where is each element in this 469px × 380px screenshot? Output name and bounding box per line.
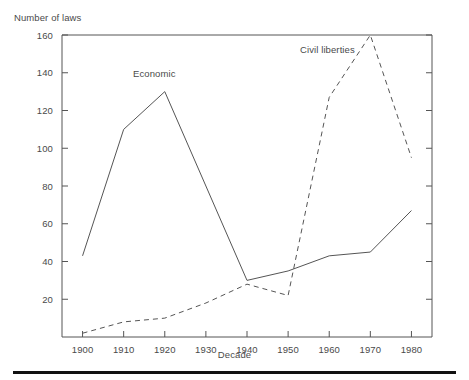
- y-tick-label: 120: [37, 105, 53, 116]
- y-tick-label: 80: [42, 181, 53, 192]
- y-tick-label: 160: [37, 30, 53, 41]
- plot-frame: [62, 35, 432, 337]
- y-tick-label: 60: [42, 218, 53, 229]
- y-axis-tick-labels: 20406080100120140160: [37, 30, 53, 305]
- y-axis-ticks: [62, 35, 68, 299]
- chart-figure: Number of laws 20406080100120140160 1900…: [0, 0, 469, 380]
- y-tick-label: 140: [37, 67, 53, 78]
- x-axis-ticks: [83, 331, 412, 337]
- y-tick-label: 20: [42, 294, 53, 305]
- series-line-economic: [83, 92, 412, 281]
- line-chart-plot: 20406080100120140160 1900191019201930194…: [0, 0, 469, 380]
- y-tick-label: 100: [37, 143, 53, 154]
- series-label-civil-liberties: Civil liberties: [300, 44, 355, 55]
- y-axis-ticks-right: [426, 35, 432, 299]
- x-axis-title: Decade: [0, 349, 469, 360]
- series-line-civil-liberties: [83, 35, 412, 333]
- data-series-group: [83, 35, 412, 333]
- y-tick-label: 40: [42, 256, 53, 267]
- footer-rule: [13, 371, 456, 374]
- series-label-economic: Economic: [133, 68, 176, 79]
